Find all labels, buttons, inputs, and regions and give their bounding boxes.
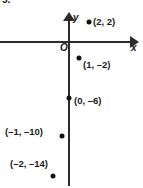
origin-label: O [60, 42, 68, 53]
data-point-dot [87, 20, 92, 25]
data-point-dot [51, 174, 56, 179]
x-axis-label: x [131, 42, 137, 53]
data-point-dot [77, 56, 82, 61]
coordinate-plane-figure: 5. y x O (2, 2)(1, –2)(0, –6)(–1, –10)(–… [0, 0, 143, 188]
y-axis-label: y [73, 12, 79, 23]
data-point-label: (–2, –14) [10, 158, 48, 169]
data-point-label: (2, 2) [93, 16, 115, 27]
y-axis-line [68, 20, 70, 186]
data-point-label: (0, –6) [74, 95, 101, 106]
problem-number: 5. [2, 0, 10, 5]
data-point-dot [67, 96, 72, 101]
data-point-label: (–1, –10) [5, 126, 43, 137]
data-point-dot [60, 134, 65, 139]
data-point-label: (1, –2) [83, 59, 110, 70]
